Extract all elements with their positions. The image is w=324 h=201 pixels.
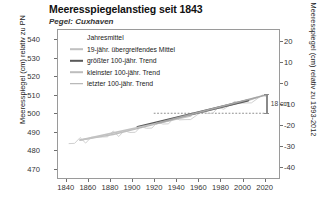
y-tick-label-left: 510 <box>27 90 40 99</box>
x-tick-mark <box>88 179 89 182</box>
y-tick-label-right: -40 <box>284 163 295 172</box>
x-tick-label: 1840 <box>57 183 74 192</box>
y-tick-label-left: 480 <box>27 146 40 155</box>
y-tick-label-right: -30 <box>284 142 295 151</box>
legend-item: 19-jähr. übergreifendes Mittel <box>70 44 175 56</box>
y-tick-label-left: 500 <box>27 109 40 118</box>
legend-item: größter 100-jähr. Trend <box>70 55 175 67</box>
y-tick-label-right: 20 <box>284 36 292 45</box>
x-tick-mark <box>66 179 67 182</box>
x-tick-label: 1860 <box>79 183 96 192</box>
legend-item-label: 19-jähr. übergreifendes Mittel <box>87 44 175 55</box>
legend-item: letzter 100-jähr. Trend <box>70 78 175 90</box>
chart-subtitle: Pegel: Cuxhaven <box>49 17 113 26</box>
x-tick-mark <box>220 179 221 182</box>
legend-item: Jahresmittel <box>70 32 175 44</box>
y-axis-label-left: Meeresspiegel (cm) relativ zu PN <box>18 5 27 135</box>
legend-swatch-icon <box>70 55 83 66</box>
x-tick-label: 1960 <box>190 183 207 192</box>
y-tick-mark-right <box>280 167 283 168</box>
y-tick-label-left: 530 <box>27 53 40 62</box>
x-tick-mark <box>198 179 199 182</box>
x-tick-label: 2020 <box>256 183 273 192</box>
y-tick-label-left: 470 <box>27 164 40 173</box>
legend-swatch-icon <box>70 32 83 43</box>
legend-swatch-icon <box>70 67 83 78</box>
legend-item-label: Jahresmittel <box>87 32 124 43</box>
legend-swatch-icon <box>70 78 83 89</box>
y-tick-mark-right <box>280 41 283 42</box>
y-tick-label-right: 10 <box>284 57 292 66</box>
y-tick-label-left: 540 <box>27 35 40 44</box>
legend-item-label: größter 100-jähr. Trend <box>87 55 157 66</box>
x-tick-label: 2000 <box>234 183 251 192</box>
y-tick-mark-right <box>280 83 283 84</box>
x-tick-label: 1980 <box>212 183 229 192</box>
x-tick-label: 1940 <box>168 183 185 192</box>
legend-item-label: letzter 100-jähr. Trend <box>87 78 153 89</box>
chart-legend: Jahresmittel19-jähr. übergreifendes Mitt… <box>70 32 175 90</box>
legend-item: kleinster 100-jähr. Trend <box>70 67 175 79</box>
x-tick-mark <box>176 179 177 182</box>
y-tick-label-left: 520 <box>27 72 40 81</box>
legend-swatch-icon <box>70 44 83 55</box>
y-axis-label-right: Meeresspiegel (cm) relativ zu 1993-2012 <box>309 0 318 145</box>
rise-bracket-cap-bottom <box>264 113 269 114</box>
x-tick-label: 1920 <box>146 183 163 192</box>
rise-annotation-label: 18 cm <box>271 100 289 107</box>
y-tick-label-left: 490 <box>27 127 40 136</box>
x-tick-label: 1900 <box>124 183 141 192</box>
x-tick-mark <box>265 179 266 182</box>
x-tick-mark <box>110 179 111 182</box>
y-tick-label-right: -20 <box>284 121 295 130</box>
chart-root: Meeresspiegelanstieg seit 1843 Pegel: Cu… <box>0 0 324 201</box>
x-tick-mark <box>132 179 133 182</box>
chart-title: Meeresspiegelanstieg seit 1843 <box>49 3 202 15</box>
legend-item-label: kleinster 100-jähr. Trend <box>87 67 160 78</box>
x-tick-mark <box>243 179 244 182</box>
y-tick-mark-right <box>280 62 283 63</box>
y-tick-mark-right <box>280 125 283 126</box>
y-tick-label-right: 0 <box>284 78 288 87</box>
y-tick-mark-right <box>280 146 283 147</box>
rise-bracket-cap-top <box>264 94 269 95</box>
x-tick-label: 1880 <box>101 183 118 192</box>
rise-bracket-bar <box>266 95 267 114</box>
x-tick-mark <box>154 179 155 182</box>
series-letzter-100-j-hr-trend <box>156 95 267 124</box>
